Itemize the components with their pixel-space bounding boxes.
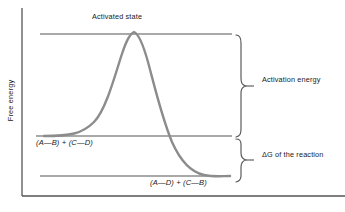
products-label: (A—D) + (C—B) (150, 179, 207, 187)
y-axis-label: Free energy (6, 71, 15, 131)
delta-g-brace (236, 139, 246, 182)
activation-energy-label: Activation energy (262, 76, 321, 83)
free-energy-reaction-diagram: Free energy Activated state (A—B) + (C—D… (0, 0, 345, 212)
reaction-coordinate-curve (44, 32, 230, 176)
delta-g-label: ΔG of the reaction (262, 151, 324, 158)
reactants-label: (A—B) + (C—D) (36, 139, 93, 147)
activation-energy-brace (236, 35, 246, 137)
activated-state-label: Activated state (92, 13, 142, 20)
